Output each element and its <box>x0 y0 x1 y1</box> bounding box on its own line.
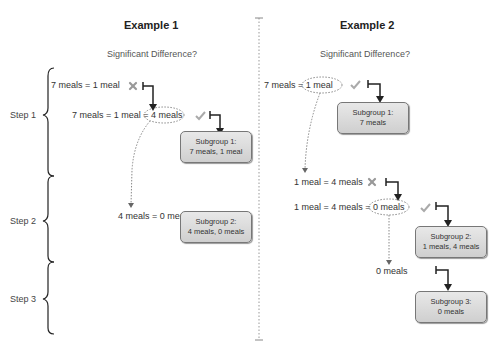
elbow-arrow-7 <box>436 266 448 286</box>
check-icon <box>196 112 205 119</box>
arrowhead-small-2 <box>302 168 308 173</box>
arrowhead-small-1 <box>128 203 134 208</box>
subgroup-box: Subgroup 2: 4 meals, 0 meals <box>180 211 252 243</box>
statement: 7 meals = 1 meal = 4 meals <box>72 110 183 120</box>
cross-icon <box>130 83 136 89</box>
subgroup-box: Subgroup 3: 0 meals <box>415 291 487 323</box>
subgroup-members: 4 meals, 0 meals <box>188 227 245 237</box>
elbow-arrow-6 <box>436 202 448 222</box>
example1-title: Example 1 <box>124 19 178 31</box>
subgroup-members: 0 meals <box>438 307 464 317</box>
arrowhead-7 <box>444 284 452 291</box>
example1-subtitle: Significant Difference? <box>107 49 197 59</box>
arrowhead-small-3 <box>386 260 392 265</box>
step-label: Step 2 <box>10 216 36 226</box>
example2-subtitle: Significant Difference? <box>320 49 410 59</box>
statement: 1 meal = 4 meals = 0 meals <box>294 202 405 212</box>
subgroup-title: Subgroup 2: <box>196 217 237 227</box>
statement: 1 meal = 4 meals <box>294 177 363 187</box>
brace-step3 <box>43 262 54 334</box>
check-icon <box>421 204 430 211</box>
subgroup-title: Subgroup 1: <box>196 137 237 147</box>
elbow-arrow-2 <box>210 111 220 130</box>
dotted-connector-1 <box>131 121 150 205</box>
step-label: Step 1 <box>10 110 36 120</box>
elbow-arrow-4 <box>368 80 380 98</box>
statement: 7 meals = 1 meal <box>51 80 120 90</box>
brace-step2 <box>43 176 54 262</box>
subgroup-members: 7 meals <box>360 118 386 128</box>
subgroup-box: Subgroup 1: 7 meals, 1 meal <box>180 131 252 163</box>
subgroup-title: Subgroup 1: <box>353 108 394 118</box>
subgroup-title: Subgroup 2: <box>431 232 472 242</box>
subgroup-members: 1 meals, 4 meals <box>423 242 480 252</box>
statement: 7 meals = 1 meal <box>264 80 333 90</box>
subgroup-box: Subgroup 2: 1 meals, 4 meals <box>415 226 487 258</box>
dotted-connector-2 <box>305 93 320 170</box>
elbow-arrow-5 <box>386 178 398 196</box>
arrowhead-5 <box>394 194 402 201</box>
step-label: Step 3 <box>10 294 36 304</box>
cross-icon <box>369 179 375 185</box>
subgroup-box: Subgroup 1: 7 meals <box>337 102 409 134</box>
elbow-arrow-1 <box>143 82 153 106</box>
subgroup-members: 7 meals, 1 meal <box>190 147 243 157</box>
example2-title: Example 2 <box>340 19 394 31</box>
subgroup-title: Subgroup 3: <box>431 297 472 307</box>
check-icon <box>351 81 360 88</box>
statement: 0 meals <box>376 266 408 276</box>
